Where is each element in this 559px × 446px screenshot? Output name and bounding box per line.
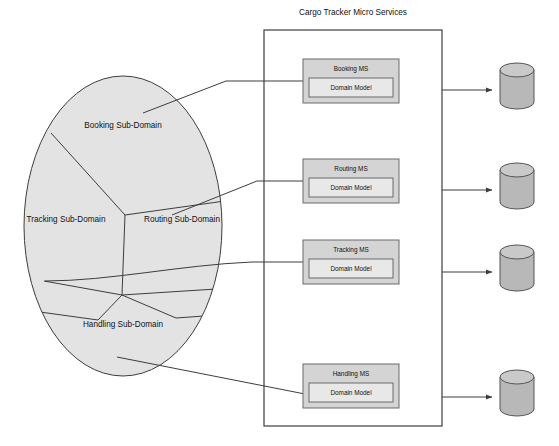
- domain-model-label-handling: Domain Model: [330, 389, 371, 396]
- db-top-booking: [500, 63, 534, 77]
- service-box-tracking[interactable]: Tracking MS Domain Model: [303, 240, 399, 284]
- service-name-booking: Booking MS: [334, 65, 368, 73]
- db-top-routing: [500, 163, 534, 177]
- service-box-booking[interactable]: Booking MS Domain Model: [303, 59, 399, 103]
- domain-model-label-booking: Domain Model: [330, 84, 371, 91]
- database-handling[interactable]: [500, 370, 534, 416]
- diagram-canvas: Booking Sub-Domain Tracking Sub-Domain R…: [0, 0, 559, 446]
- database-routing[interactable]: [500, 163, 534, 209]
- db-top-handling: [500, 370, 534, 384]
- subdomain-label-tracking: Tracking Sub-Domain: [27, 215, 106, 224]
- subdomain-label-handling: Handling Sub-Domain: [83, 320, 164, 329]
- database-tracking[interactable]: [500, 245, 534, 291]
- service-name-routing: Routing MS: [334, 165, 367, 173]
- container-title: Cargo Tracker Micro Services: [299, 8, 407, 17]
- subdomain-label-routing: Routing Sub-Domain: [144, 215, 220, 224]
- service-name-tracking: Tracking MS: [333, 246, 369, 254]
- database-booking[interactable]: [500, 63, 534, 109]
- domain-model-label-tracking: Domain Model: [330, 265, 371, 272]
- subdomain-label-booking: Booking Sub-Domain: [84, 121, 162, 130]
- db-top-tracking: [500, 245, 534, 259]
- service-box-routing[interactable]: Routing MS Domain Model: [303, 159, 399, 203]
- domain-model-label-routing: Domain Model: [330, 184, 371, 191]
- service-box-handling[interactable]: Handling MS Domain Model: [303, 364, 399, 408]
- service-name-handling: Handling MS: [333, 370, 370, 378]
